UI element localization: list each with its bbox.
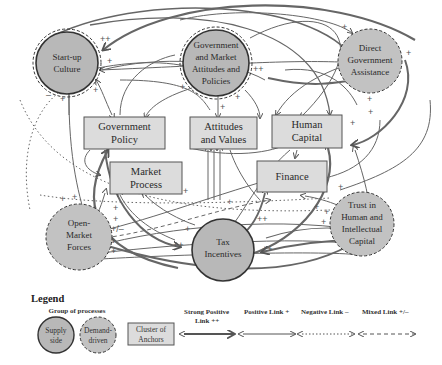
link-negative (40, 195, 330, 203)
sign-positive: + (113, 214, 118, 224)
sign-positive: + (60, 194, 65, 204)
anchor-label: Human (292, 119, 324, 130)
sign-positive: + (180, 82, 185, 92)
sign-positive: + (321, 217, 326, 227)
node-label: Capital (349, 236, 375, 246)
legend-supply-label: Supply (45, 326, 67, 335)
anchor-label: and Values (201, 134, 247, 145)
node-label: Direct (359, 43, 382, 53)
legend: Legend Group of processes Supply side De… (31, 293, 415, 353)
legend-group-label: Group of processes (49, 307, 106, 315)
legend-mixed-link: Mixed Link +/– (362, 308, 415, 334)
link-positive (96, 80, 112, 115)
legend-strong-positive-link: Strong Positive Link ++ (184, 308, 234, 334)
legend-demand-driven: Demand- driven (80, 317, 116, 353)
sign-strong-positive: ++ (100, 34, 111, 44)
legend-supply-side: Supply side (38, 317, 74, 353)
sign-positive: + (72, 192, 77, 202)
legend-cluster-of-anchors: Cluster of Anchors (128, 323, 174, 345)
anchor-label: Market (131, 166, 161, 177)
sign-strong-positive: ++ (262, 244, 273, 254)
link-positive (295, 150, 297, 158)
legend-negative-link: Negative Link – (301, 308, 354, 334)
sign-positive: + (338, 182, 343, 192)
anchor-government-policy: Government Policy (84, 117, 165, 149)
legend-mixed-label: Mixed Link +/– (362, 308, 409, 316)
sign-positive: + (227, 197, 232, 207)
sign-positive: + (93, 85, 98, 95)
node-label: Trust in (348, 200, 376, 210)
node-label: Tax (216, 237, 230, 247)
node-label: and Market (195, 52, 237, 62)
anchor-market-process: Market Process (110, 162, 182, 194)
legend-positive-label: Positive Link + (244, 308, 289, 316)
anchor-label: Capital (292, 132, 322, 143)
node-label: Open- (68, 218, 91, 228)
legend-demand-label: driven (88, 336, 107, 345)
node-label: Policies (202, 76, 231, 86)
sign-positive: + (368, 107, 373, 117)
sign-negative: – (46, 90, 51, 100)
legend-negative-label: Negative Link – (301, 308, 349, 316)
node-label: Market (66, 230, 92, 240)
anchor-label: Process (130, 179, 162, 190)
sign-positive: + (183, 186, 188, 196)
legend-supply-label: side (50, 336, 63, 345)
legend-cluster-label: Anchors (138, 335, 163, 344)
legend-positive-link: Positive Link + (243, 308, 295, 334)
sign-strong-positive: ++ (173, 240, 184, 250)
sign-mixed: +/– (111, 224, 124, 234)
sign-positive: + (342, 22, 347, 32)
link-positive (145, 195, 195, 225)
sign-positive: + (406, 48, 411, 58)
anchor-label: Government (98, 121, 151, 132)
sign-positive: + (107, 56, 112, 66)
legend-demand-label: Demand- (84, 326, 112, 335)
anchor-attitudes-and-values: Attitudes and Values (190, 117, 257, 149)
legend-strong-label: Link ++ (195, 317, 219, 325)
legend-strong-label: Strong Positive (184, 308, 229, 316)
node-label: Incentives (205, 249, 242, 259)
sign-positive: + (235, 92, 240, 102)
link-positive (245, 90, 260, 118)
node-tax-incentives: Tax Incentives (192, 219, 254, 281)
sign-positive: + (367, 94, 372, 104)
sign-positive: + (60, 94, 65, 104)
link-positive (230, 150, 260, 200)
node-label: Intellectual (342, 224, 383, 234)
anchor-label: Finance (275, 171, 309, 182)
sign-strong-positive: ++ (253, 64, 264, 74)
sign-positive: + (111, 236, 116, 246)
sign-positive: + (324, 207, 329, 217)
sign-positive: + (220, 102, 225, 112)
node-open-market-forces: Open- Market Forces (46, 204, 112, 270)
legend-title: Legend (31, 293, 64, 304)
node-label: Government (194, 40, 239, 50)
node-label: Attitudes and (192, 64, 241, 74)
node-label: Forces (67, 242, 91, 252)
sign-positive: + (314, 202, 319, 212)
anchor-human-capital: Human Capital (272, 115, 342, 148)
sign-strong-positive: ++ (257, 214, 268, 224)
sign-positive: + (113, 203, 118, 213)
causal-loop-diagram: Start-up Culture Government and Market A… (0, 0, 442, 365)
legend-cluster-label: Cluster of (136, 325, 166, 334)
node-label: Government (348, 55, 393, 65)
link-positive (145, 88, 192, 118)
node-label: Assistance (351, 67, 390, 77)
node-trust-human-intellectual-capital: Trust in Human and Intellectual Capital (330, 192, 394, 256)
sign-positive: + (350, 118, 355, 128)
node-direct-government-assistance: Direct Government Assistance (338, 29, 402, 93)
anchor-label: Attitudes (204, 121, 243, 132)
sign-positive: + (111, 246, 116, 256)
node-startup-culture: Start-up Culture (33, 29, 101, 97)
anchor-label: Policy (111, 134, 139, 145)
node-label: Culture (54, 64, 81, 74)
node-label: Start-up (53, 52, 82, 62)
anchor-finance: Finance (257, 161, 327, 192)
node-label: Human and (341, 212, 383, 222)
link-negative (26, 88, 65, 210)
sign-positive: + (185, 224, 190, 234)
